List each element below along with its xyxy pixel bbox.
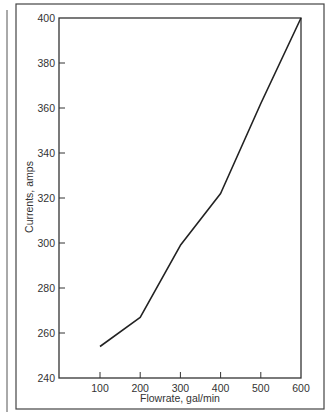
x-tick-label: 100 <box>91 382 109 394</box>
chart-canvas: 2402602803003203403603804001002003004005… <box>0 0 329 416</box>
y-tick-label: 340 <box>37 147 55 159</box>
x-axis-title: Flowrate, gal/min <box>140 392 220 404</box>
y-axis-title: Currents, amps <box>23 161 35 233</box>
outer-frame <box>16 4 324 409</box>
y-tick-label: 320 <box>37 192 55 204</box>
plot-area: 2402602803003203403603804001002003004005… <box>37 12 309 394</box>
y-tick-label: 240 <box>37 372 55 384</box>
x-tick-label: 500 <box>252 382 270 394</box>
y-tick-label: 300 <box>37 237 55 249</box>
y-tick-label: 260 <box>37 327 55 339</box>
y-tick-label: 380 <box>37 57 55 69</box>
y-tick-label: 400 <box>37 12 55 24</box>
axes-box <box>59 18 301 378</box>
y-tick-label: 280 <box>37 282 55 294</box>
y-tick-label: 360 <box>37 102 55 114</box>
data-line <box>100 18 301 347</box>
x-tick-label: 600 <box>292 382 310 394</box>
